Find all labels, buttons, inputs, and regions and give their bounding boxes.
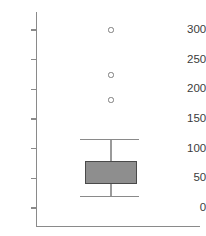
y-axis-tick-mark (31, 89, 36, 90)
y-axis-tick-mark (31, 118, 36, 119)
lower-whisker-stem (110, 184, 111, 196)
y-axis-tick-label: 100 (178, 143, 206, 155)
box-plot-figure: 300250200150100500 (0, 0, 206, 236)
lower-whisker-cap (80, 196, 139, 197)
y-axis-tick-mark (31, 178, 36, 179)
outlier-point (108, 97, 113, 102)
y-axis-tick-label: 50 (178, 172, 206, 184)
outlier-point (108, 27, 113, 32)
y-axis-tick-mark (31, 148, 36, 149)
box-iqr-rect (85, 161, 137, 185)
y-axis-tick-mark (31, 59, 36, 60)
y-axis-tick-label: 200 (178, 83, 206, 95)
upper-whisker-stem (110, 140, 111, 161)
y-axis-tick-mark (31, 29, 36, 30)
outlier-point (108, 72, 113, 77)
x-axis-line (36, 226, 200, 228)
y-axis-tick-label: 300 (178, 24, 206, 36)
y-axis-tick-label: 150 (178, 113, 206, 125)
y-axis-line (36, 12, 37, 226)
upper-whisker-cap (80, 139, 139, 140)
y-axis-tick-label: 0 (178, 202, 206, 214)
y-axis-tick-mark (31, 207, 36, 208)
y-axis-tick-label: 250 (178, 54, 206, 66)
